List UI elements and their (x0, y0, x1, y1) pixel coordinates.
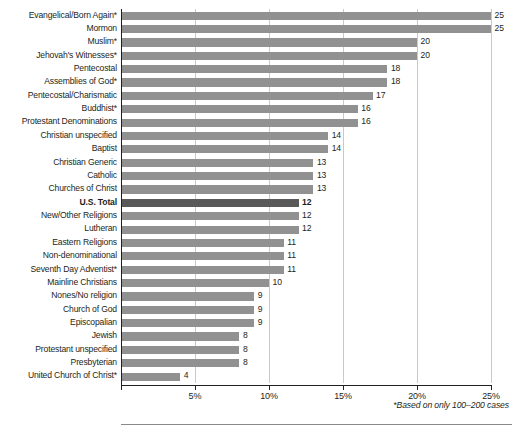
bar (121, 279, 269, 287)
bar-value-label: 25 (495, 9, 504, 22)
bar-value-label: 18 (391, 75, 400, 88)
bar-row: Pentecostal18 (0, 62, 521, 75)
bar-row: Nones/No religion9 (0, 290, 521, 303)
bar (121, 212, 299, 220)
bar-value-label: 12 (302, 196, 311, 209)
category-label: Protestant Denominations (0, 115, 117, 128)
bar (121, 159, 313, 167)
bar (121, 52, 417, 60)
bar (121, 105, 358, 113)
category-label: Churches of Christ (0, 182, 117, 195)
bar-row: Buddhist*16 (0, 103, 521, 116)
bar-value-label: 13 (317, 182, 326, 195)
x-axis-tick-label: 5% (175, 390, 215, 402)
bar-row: Churches of Christ13 (0, 183, 521, 196)
bar (121, 172, 313, 180)
bar-row: Presbyterian8 (0, 357, 521, 370)
bar-row: Catholic13 (0, 169, 521, 182)
bar-row: Eastern Religions11 (0, 236, 521, 249)
category-label: Pentecostal/Charismatic (0, 89, 117, 102)
category-label: Muslim* (0, 35, 117, 48)
x-axis-tick (121, 385, 122, 390)
bar-value-label: 9 (258, 303, 263, 316)
bar-value-label: 16 (361, 102, 370, 115)
bar-row: Baptist14 (0, 143, 521, 156)
bar-value-label: 13 (317, 169, 326, 182)
category-label: Jehovah's Witnesses* (0, 49, 117, 62)
bar-value-label: 20 (421, 49, 430, 62)
category-label: Christian unspecified (0, 129, 117, 142)
bar (121, 65, 387, 73)
bar (121, 226, 299, 234)
bar-value-label: 12 (302, 209, 311, 222)
bar-value-label: 25 (495, 22, 504, 35)
bar-row-highlighted: U.S. Total12 (0, 196, 521, 209)
bar (121, 266, 284, 274)
category-label: Church of God (0, 303, 117, 316)
bar-value-label: 8 (243, 343, 248, 356)
bar-row: Assemblies of God*18 (0, 76, 521, 89)
bar-row: Protestant Denominations16 (0, 116, 521, 129)
bar-row: Jehovah's Witnesses*20 (0, 49, 521, 62)
category-label: Jewish (0, 329, 117, 342)
category-label: Mormon (0, 22, 117, 35)
bar (121, 373, 180, 381)
bar-value-label: 14 (332, 142, 341, 155)
category-label: Baptist (0, 142, 117, 155)
bar-value-label: 12 (302, 222, 311, 235)
bottom-divider-rule (121, 424, 512, 425)
bar (121, 292, 254, 300)
bar (121, 38, 417, 46)
bar (121, 346, 239, 354)
category-label: Catholic (0, 169, 117, 182)
y-axis-line (121, 9, 122, 386)
bar (121, 199, 299, 207)
x-axis-tick-label: 20% (397, 390, 437, 402)
bar-value-label: 10 (273, 276, 282, 289)
bar-row: Church of God9 (0, 303, 521, 316)
bar (121, 359, 239, 367)
bar (121, 145, 328, 153)
category-label: Assemblies of God* (0, 75, 117, 88)
bar (121, 239, 284, 247)
bar-value-label: 11 (287, 263, 296, 276)
bar-chart: Evangelical/Born Again*25Mormon25Muslim*… (0, 0, 521, 431)
bar (121, 92, 373, 100)
bar-value-label: 4 (184, 369, 189, 382)
bar-row: United Church of Christ*4 (0, 370, 521, 383)
bar-row: Christian unspecified14 (0, 129, 521, 142)
category-label: U.S. Total (0, 196, 117, 209)
bar (121, 185, 313, 193)
x-axis-line (121, 385, 492, 386)
category-label: New/Other Religions (0, 209, 117, 222)
bar (121, 25, 491, 33)
bar (121, 119, 358, 127)
bar-row: Lutheran12 (0, 223, 521, 236)
bar-value-label: 8 (243, 329, 248, 342)
bar (121, 306, 254, 314)
bar (121, 78, 387, 86)
category-label: Protestant unspecified (0, 343, 117, 356)
bar-value-label: 11 (287, 236, 296, 249)
bar-value-label: 17 (376, 89, 385, 102)
category-label: Presbyterian (0, 356, 117, 369)
bar-value-label: 11 (287, 249, 296, 262)
bar-value-label: 9 (258, 316, 263, 329)
category-label: Buddhist* (0, 102, 117, 115)
bar-row: Christian Generic13 (0, 156, 521, 169)
category-label: Non-denominational (0, 249, 117, 262)
x-axis-tick-label: 10% (249, 390, 289, 402)
bar-row: Non-denominational11 (0, 250, 521, 263)
x-axis-tick-label: 15% (323, 390, 363, 402)
bar (121, 12, 491, 20)
bar-row: Mormon25 (0, 22, 521, 35)
category-label: Christian Generic (0, 156, 117, 169)
bar-row: New/Other Religions12 (0, 210, 521, 223)
bar-row: Pentecostal/Charismatic17 (0, 89, 521, 102)
category-label: Pentecostal (0, 62, 117, 75)
category-label: Seventh Day Adventist* (0, 263, 117, 276)
bar-row: Protestant unspecified8 (0, 343, 521, 356)
bar-value-label: 13 (317, 156, 326, 169)
bar (121, 132, 328, 140)
bar-value-label: 20 (421, 35, 430, 48)
